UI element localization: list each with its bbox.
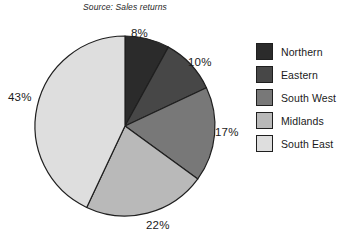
- legend-swatch-eastern: [256, 66, 273, 83]
- legend-item-south-east[interactable]: South East: [256, 132, 348, 155]
- legend-label-south-east: South East: [281, 138, 333, 150]
- slice-value-label-south-west: 17%: [215, 126, 239, 138]
- slice-value-label-northern: 8%: [131, 27, 148, 39]
- legend-swatch-northern: [256, 43, 273, 60]
- legend-label-northern: Northern: [281, 46, 323, 58]
- legend-label-eastern: Eastern: [281, 69, 318, 81]
- pie-plot-area: 8% 10% 17% 22% 43%: [0, 0, 250, 248]
- slice-value-label-south-east: 43%: [8, 91, 32, 103]
- legend-swatch-south-east: [256, 135, 273, 152]
- slice-value-label-eastern: 10%: [188, 56, 212, 68]
- legend-label-south-west: South West: [281, 92, 336, 104]
- legend-item-midlands[interactable]: Midlands: [256, 109, 348, 132]
- legend-item-south-west[interactable]: South West: [256, 86, 348, 109]
- slice-value-label-midlands: 22%: [146, 219, 170, 231]
- legend-swatch-south-west: [256, 89, 273, 106]
- legend-swatch-midlands: [256, 112, 273, 129]
- pie-svg: [0, 0, 250, 248]
- legend-item-northern[interactable]: Northern: [256, 40, 348, 63]
- pie-chart-figure: Source: Sales returns 8% 10% 17% 22% 43%…: [0, 0, 348, 248]
- legend-item-eastern[interactable]: Eastern: [256, 63, 348, 86]
- legend-label-midlands: Midlands: [281, 115, 324, 127]
- legend: NorthernEasternSouth WestMidlandsSouth E…: [256, 40, 348, 155]
